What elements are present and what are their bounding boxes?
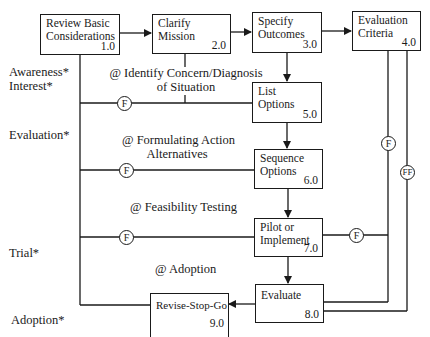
box-number: 8.0 bbox=[305, 308, 319, 320]
stage-label-trial: Trial* bbox=[9, 246, 39, 260]
box-title: Revise-Stop-Go bbox=[156, 299, 227, 312]
box-number: 5.0 bbox=[303, 108, 317, 120]
box-number: 1.0 bbox=[101, 40, 115, 52]
stage-label-interest: Interest* bbox=[9, 79, 53, 93]
box-number: 6.0 bbox=[304, 174, 318, 186]
box-clarify-mission: ClarifyMission 2.0 bbox=[152, 14, 231, 54]
box-title: EvaluationCriteria bbox=[358, 14, 408, 39]
feedback-marker-f-1: F bbox=[117, 96, 132, 111]
feedback-marker-ff: FF bbox=[400, 165, 415, 180]
box-title: SpecifyOutcomes bbox=[258, 15, 305, 40]
phase-label-identify: @ Identify Concern/Diagnosisof Situation bbox=[106, 66, 266, 94]
feedback-marker-f-2: F bbox=[119, 163, 134, 178]
box-number: 3.0 bbox=[303, 38, 317, 50]
box-revise-stop-go: Revise-Stop-Go 9.0 bbox=[150, 293, 229, 337]
box-title: SequenceOptions bbox=[260, 152, 304, 177]
box-number: 7.0 bbox=[304, 242, 318, 254]
stage-label-awareness: Awareness* bbox=[9, 65, 69, 79]
feedback-marker-f-4: F bbox=[349, 228, 364, 243]
feedback-marker-f-3: F bbox=[119, 230, 134, 245]
box-number: 2.0 bbox=[212, 39, 226, 51]
box-evaluate: Evaluate 8.0 bbox=[255, 284, 324, 323]
box-review-basic-considerations: Review BasicConsiderations 1.0 bbox=[40, 14, 120, 55]
phase-label-feasibility: @ Feasibility Testing bbox=[130, 200, 237, 214]
box-number: 9.0 bbox=[210, 317, 224, 329]
box-title: Pilot orImplement bbox=[260, 221, 310, 246]
phase-label-adoption: @ Adoption bbox=[155, 262, 216, 276]
box-pilot-or-implement: Pilot orImplement 7.0 bbox=[254, 218, 323, 257]
phase-label-formulating: @ Formulating ActionAlternatives bbox=[122, 133, 232, 161]
feedback-marker-f-5: F bbox=[381, 136, 396, 151]
box-number: 4.0 bbox=[402, 36, 416, 48]
box-sequence-options: SequenceOptions 6.0 bbox=[254, 149, 323, 189]
stage-label-adoption: Adoption* bbox=[11, 313, 64, 327]
box-title: ClarifyMission bbox=[158, 17, 195, 42]
stage-label-evaluation: Evaluation* bbox=[9, 128, 69, 142]
box-title: Review BasicConsiderations bbox=[46, 17, 115, 42]
box-title: Evaluate bbox=[261, 289, 301, 302]
box-specify-outcomes: SpecifyOutcomes 3.0 bbox=[252, 12, 322, 53]
box-evaluation-criteria: EvaluationCriteria 4.0 bbox=[352, 11, 421, 51]
